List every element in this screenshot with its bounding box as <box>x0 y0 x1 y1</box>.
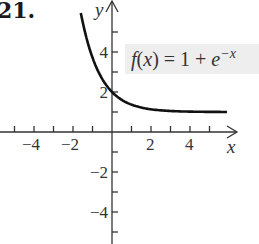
y-tick-label: 4 <box>100 43 109 62</box>
problem-number: 21. <box>0 0 35 23</box>
x-axis-label: x <box>226 136 236 157</box>
x-tick-label: 4 <box>185 135 194 154</box>
chart-canvas: −4 −2 2 4 4 2 −2 −4 x y f(x) = 1 + e−x <box>0 0 259 244</box>
y-tick-label: −4 <box>90 203 109 222</box>
graph-figure: 21. <box>0 0 259 244</box>
x-tick-labels: −4 −2 2 4 <box>22 135 194 154</box>
x-tick-label: 2 <box>146 135 155 154</box>
x-tick-label: −4 <box>22 135 41 154</box>
axes <box>0 1 237 244</box>
x-tick-label: −2 <box>61 135 79 154</box>
y-axis-label: y <box>93 0 104 20</box>
y-tick-label: −2 <box>90 163 108 182</box>
